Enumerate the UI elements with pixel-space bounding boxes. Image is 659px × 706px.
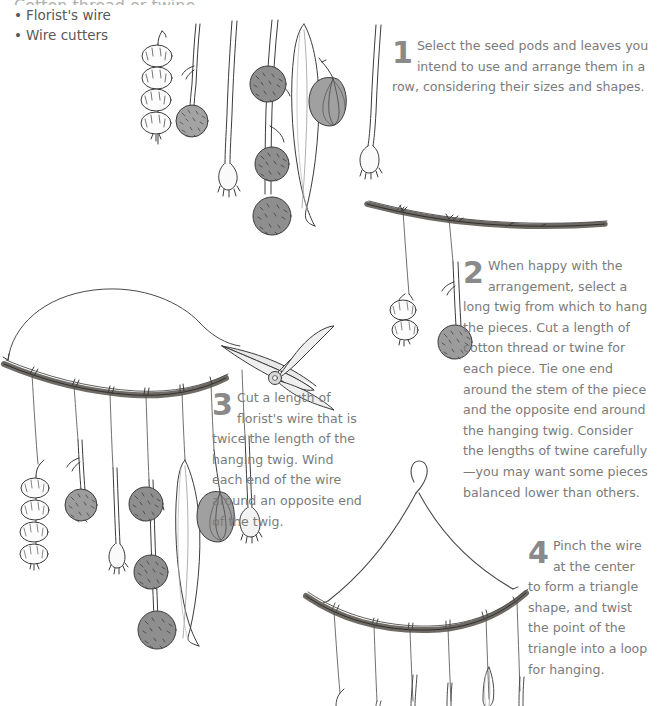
hanging-loop (411, 461, 427, 493)
two-lobed-pod (390, 294, 418, 346)
twine-thread-1 (400, 206, 409, 294)
materials-items: Florist's wire Wire cutters (14, 5, 234, 45)
triple-gumnut-branch (129, 480, 176, 649)
twig (367, 201, 607, 226)
step-number: 1 (392, 38, 412, 68)
twine-threads (334, 602, 520, 701)
instruction-step-3: 3 Cut a length of florist's wire that is… (212, 388, 362, 532)
four-lobed-seed-pod-string (20, 460, 49, 570)
long-eucalyptus-leaf (176, 460, 200, 646)
triple-gumnut-branch (250, 20, 291, 235)
step-text: Cut a length of florist's wire that is t… (212, 388, 362, 532)
gray-chinese-lantern-pod (309, 58, 346, 126)
twine-thread-2 (446, 214, 453, 262)
twig (306, 589, 528, 630)
four-lobed-seed-pod-string (141, 31, 172, 144)
instruction-step-2: 2 When happy with the arrangement, selec… (463, 256, 655, 503)
illustration-row-of-pods (120, 18, 410, 268)
list-item: Florist's wire (14, 5, 234, 25)
step-text: When happy with the arrangement, select … (463, 256, 655, 503)
small-bell-pod (109, 468, 128, 574)
instruction-step-4: 4 Pinch the wire at the center to form a… (528, 536, 650, 680)
small-bell-pod (218, 21, 240, 197)
list-item: Wire cutters (14, 25, 234, 45)
hanging-pieces-partial (336, 667, 524, 706)
round-fuzzy-gumnut-a (65, 440, 97, 522)
step-number: 2 (463, 258, 483, 288)
step-number: 3 (212, 390, 232, 420)
wire-arch (3, 289, 240, 360)
instruction-step-1: 1 Select the seed pods and leaves you in… (392, 36, 650, 98)
twig (4, 360, 228, 395)
slim-bell-pod (360, 25, 382, 179)
long-eucalyptus-leaf (292, 24, 319, 226)
step-number: 4 (528, 538, 548, 568)
step-text: Select the seed pods and leaves you inte… (392, 36, 650, 98)
materials-list: Cotton thread or twine Florist's wire Wi… (14, 0, 234, 45)
